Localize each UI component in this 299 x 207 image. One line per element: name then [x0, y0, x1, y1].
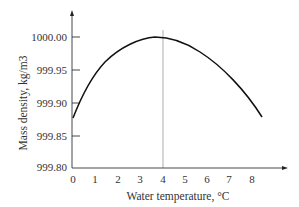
svg-text:6: 6 — [204, 173, 210, 185]
svg-text:5: 5 — [182, 173, 188, 185]
y-tick-labels: 1000.00 999.95 999.90 999.85 999.80 — [31, 31, 67, 173]
svg-text:3: 3 — [137, 173, 143, 185]
svg-text:1000.00: 1000.00 — [31, 31, 67, 43]
svg-text:999.80: 999.80 — [37, 161, 68, 173]
x-tick-labels: 0 1 2 3 4 5 6 7 8 — [70, 173, 255, 185]
svg-text:4: 4 — [160, 173, 166, 185]
density-curve — [73, 37, 262, 118]
svg-text:1: 1 — [92, 173, 98, 185]
svg-text:0: 0 — [70, 173, 76, 185]
x-axis-arrow-icon — [282, 166, 288, 170]
svg-text:999.85: 999.85 — [37, 130, 68, 142]
density-chart: 1000.00 999.95 999.90 999.85 999.80 0 1 … — [0, 0, 299, 207]
svg-text:999.95: 999.95 — [37, 64, 68, 76]
svg-text:999.90: 999.90 — [37, 97, 68, 109]
svg-text:7: 7 — [226, 173, 232, 185]
y-axis-arrow-icon — [70, 10, 74, 16]
y-ticks — [72, 37, 80, 136]
svg-text:2: 2 — [115, 173, 121, 185]
y-axis-title: Mass density, kg/m3 — [17, 55, 30, 150]
svg-text:8: 8 — [249, 173, 255, 185]
x-axis-title: Water temperature, °C — [127, 190, 230, 203]
